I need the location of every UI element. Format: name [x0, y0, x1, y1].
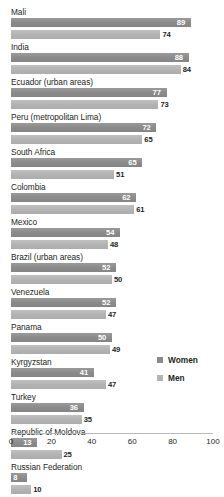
bar-group: Brazil (urban areas)5250: [0, 252, 224, 286]
bar-row: 36: [11, 403, 224, 414]
bar-value-label: 25: [64, 449, 72, 460]
bar-women: [11, 18, 191, 27]
bar-value-label: 84: [183, 64, 191, 75]
bar-women: [11, 263, 116, 272]
category-label: Peru (metropolitan Lima): [0, 112, 224, 123]
bar-value-label: 54: [106, 227, 114, 238]
x-axis-tick: 20: [47, 437, 56, 446]
bar-value-label: 49: [112, 344, 120, 355]
category-label: Brazil (urban areas): [0, 252, 224, 263]
bar-value-label: 35: [84, 414, 92, 425]
chart-legend: WomenMen: [157, 355, 198, 391]
bar-value-label: 8: [13, 472, 17, 483]
bar-women: [11, 228, 120, 237]
bar-group: South Africa6551: [0, 147, 224, 181]
bar-men: [11, 205, 134, 214]
bar-men: [11, 275, 112, 284]
x-axis-tick: 60: [128, 437, 137, 446]
bar-women: [11, 333, 112, 342]
bar-row: 65: [11, 158, 224, 169]
bar-men: [11, 65, 181, 74]
bar-row: 65: [11, 135, 224, 146]
bar-value-label: 74: [162, 29, 170, 40]
bar-value-label: 65: [144, 134, 152, 145]
bar-women: [11, 123, 156, 132]
bar-men: [11, 240, 108, 249]
bar-group: Mali8974: [0, 7, 224, 41]
legend-item-men[interactable]: Men: [157, 373, 198, 383]
bar-women: [11, 158, 142, 167]
bar-value-label: 51: [116, 169, 124, 180]
bar-row: 10: [11, 485, 224, 496]
bar-men: [11, 380, 106, 389]
x-axis-tick: 100: [206, 437, 219, 446]
bar-men: [11, 345, 110, 354]
bar-group: Ecuador (urban areas)7773: [0, 77, 224, 111]
category-label: Turkey: [0, 392, 224, 403]
bar-men: [11, 415, 82, 424]
bar-value-label: 88: [175, 52, 183, 63]
bar-group: Turkey3635: [0, 392, 224, 426]
bar-row: 50: [11, 333, 224, 344]
bar-value-label: 52: [102, 262, 110, 273]
bar-group: Panama5049: [0, 322, 224, 356]
bar-value-label: 50: [98, 332, 106, 343]
category-label: Russian Federation: [0, 462, 224, 473]
bar-row: 52: [11, 298, 224, 309]
bar-value-label: 61: [136, 204, 144, 215]
x-axis-tick: 80: [168, 437, 177, 446]
bar-women: [11, 298, 116, 307]
bar-value-label: 50: [114, 274, 122, 285]
bar-value-label: 48: [110, 239, 118, 250]
bar-men: [11, 135, 142, 144]
bar-value-label: 73: [160, 99, 168, 110]
bar-value-label: 13: [23, 437, 31, 448]
x-axis-tick: 40: [87, 437, 96, 446]
bar-value-label: 41: [80, 367, 88, 378]
category-label: India: [0, 42, 224, 53]
bar-value-label: 89: [177, 17, 185, 28]
plot-area: Mali8974India8884Ecuador (urban areas)77…: [0, 7, 224, 497]
bar-group: Peru (metropolitan Lima)7265: [0, 112, 224, 146]
legend-label: Women: [168, 355, 198, 365]
bar-row: 47: [11, 310, 224, 321]
bar-group: Russian Federation810: [0, 462, 224, 496]
bar-group: Venezuela5247: [0, 287, 224, 321]
bar-value-label: 36: [70, 402, 78, 413]
bar-men: [11, 310, 106, 319]
bar-value-label: 47: [108, 309, 116, 320]
bar-row: 48: [11, 240, 224, 251]
bar-men: [11, 485, 31, 494]
bar-men: [11, 100, 158, 109]
bar-row: 51: [11, 170, 224, 181]
category-label: Venezuela: [0, 287, 224, 298]
bar-row: 77: [11, 88, 224, 99]
bar-value-label: 10: [33, 484, 41, 495]
bar-women: [11, 193, 136, 202]
bar-value-label: 52: [102, 297, 110, 308]
bar-women: [11, 53, 189, 62]
bar-value-label: 77: [153, 87, 161, 98]
bar-group: Colombia6261: [0, 182, 224, 216]
bar-group: Mexico5448: [0, 217, 224, 251]
bar-row: 73: [11, 100, 224, 111]
bar-row: 88: [11, 53, 224, 64]
legend-swatch-icon: [157, 357, 163, 363]
category-label: Ecuador (urban areas): [0, 77, 224, 88]
bar-row: 74: [11, 30, 224, 41]
category-label: Mali: [0, 7, 224, 18]
bar-value-label: 47: [108, 379, 116, 390]
bar-men: [11, 170, 114, 179]
bar-row: 35: [11, 415, 224, 426]
bar-men: [11, 450, 62, 459]
bar-row: 72: [11, 123, 224, 134]
bar-row: 89: [11, 18, 224, 29]
bar-row: 25: [11, 450, 224, 461]
legend-item-women[interactable]: Women: [157, 355, 198, 365]
x-axis: 020406080100: [11, 433, 213, 434]
bar-women: [11, 88, 167, 97]
x-axis-tick: 0: [9, 437, 13, 446]
legend-label: Men: [168, 373, 185, 383]
category-label: Colombia: [0, 182, 224, 193]
